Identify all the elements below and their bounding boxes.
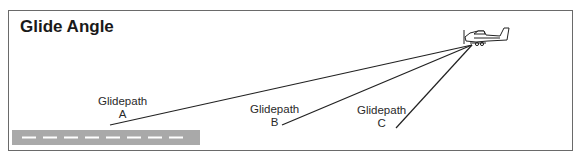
glidepath-c-letter: C (357, 117, 406, 130)
glidepath-b-label: Glidepath B (250, 103, 299, 129)
runway (12, 130, 200, 145)
glidepath-b-letter: B (250, 116, 299, 129)
glidepath-a-letter: A (98, 108, 147, 121)
glidepath-c-text: Glidepath (357, 104, 406, 117)
glidepath-c-line (396, 45, 472, 128)
airplane-icon (464, 28, 509, 46)
glidepath-a-text: Glidepath (98, 95, 147, 108)
glidepath-c-label: Glidepath C (357, 104, 406, 130)
glide-angle-diagram (0, 0, 579, 158)
glidepath-a-label: Glidepath A (98, 95, 147, 121)
glidepath-b-text: Glidepath (250, 103, 299, 116)
